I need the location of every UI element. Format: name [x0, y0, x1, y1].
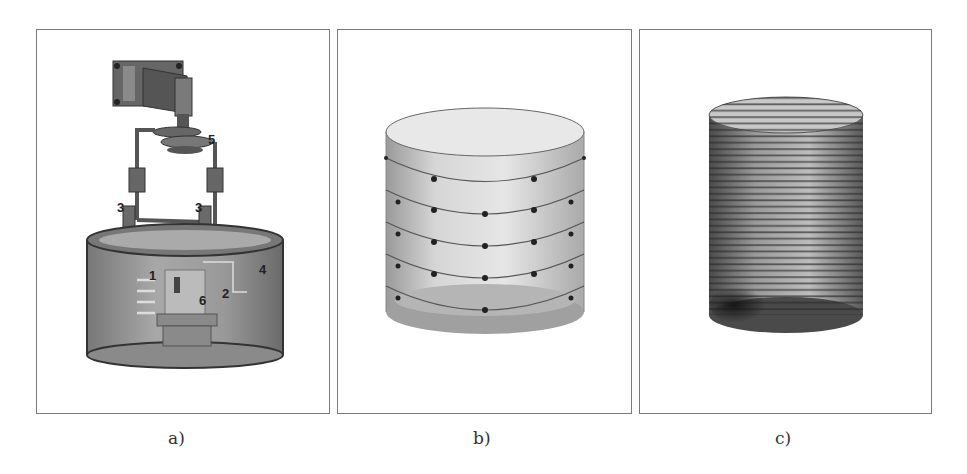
label-3-left: 3 — [117, 200, 124, 215]
label-2: 2 — [222, 286, 229, 301]
motor-icon — [113, 61, 192, 116]
caption-c: c) — [775, 428, 791, 448]
label-1: 1 — [149, 268, 156, 283]
label-6: 6 — [199, 293, 206, 308]
panel-b-coarse-cylinder — [337, 29, 632, 414]
label-3-right: 3 — [195, 200, 202, 215]
coarse-mesh-cylinder — [338, 30, 633, 415]
panel-a-setup-schematic: 3 3 5 4 1 2 6 — [36, 29, 330, 414]
apparatus-illustration: 3 3 5 4 1 2 6 — [37, 30, 331, 415]
coupling-icon — [153, 114, 213, 154]
panel-c-fine-cylinder — [639, 29, 932, 414]
caption-a: a) — [168, 428, 185, 448]
label-5: 5 — [208, 132, 215, 147]
label-4: 4 — [259, 262, 267, 277]
caption-b: b) — [473, 428, 491, 448]
fine-mesh-cylinder — [640, 30, 933, 415]
